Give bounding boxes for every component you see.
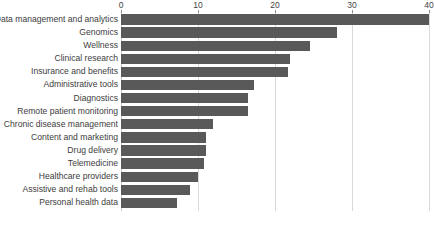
bar (121, 54, 290, 64)
bar (121, 14, 429, 24)
bar-row: Wellness (0, 39, 434, 52)
bar-row: Clinical research (0, 52, 434, 65)
category-label: Administrative tools (43, 78, 118, 91)
bar-row: Healthcare providers (0, 170, 434, 183)
x-axis-top: 010203040 (121, 0, 429, 13)
bar (121, 185, 190, 195)
bar-row: Drug delivery (0, 144, 434, 157)
bar-rows: Data management and analyticsGenomicsWel… (0, 13, 434, 211)
category-label: Personal health data (39, 196, 118, 209)
bar (121, 41, 310, 51)
bar (121, 132, 206, 142)
bar-row: Assistive and rehab tools (0, 183, 434, 196)
bar (121, 67, 288, 77)
category-label: Chronic disease management (4, 118, 118, 131)
bar-row: Diagnostics (0, 92, 434, 105)
bar-chart: 010203040 Data management and analyticsG… (0, 0, 434, 226)
bar (121, 106, 248, 116)
category-label: Diagnostics (74, 92, 118, 105)
bar (121, 158, 204, 168)
category-label: Clinical research (54, 52, 118, 65)
bar-row: Chronic disease management (0, 118, 434, 131)
bar-row: Insurance and benefits (0, 65, 434, 78)
bar (121, 198, 177, 208)
bar (121, 172, 198, 182)
bar-row: Telemedicine (0, 157, 434, 170)
category-label: Remote patient monitoring (17, 105, 118, 118)
bar-row: Content and marketing (0, 131, 434, 144)
bar (121, 27, 337, 37)
bar-row: Personal health data (0, 196, 434, 209)
bar-row: Data management and analytics (0, 13, 434, 26)
bar (121, 119, 213, 129)
bar (121, 145, 206, 155)
category-label: Wellness (83, 39, 118, 52)
bar-row: Genomics (0, 26, 434, 39)
category-label: Data management and analytics (0, 13, 118, 26)
bar-row: Remote patient monitoring (0, 105, 434, 118)
bar-row: Administrative tools (0, 78, 434, 91)
category-label: Drug delivery (67, 144, 118, 157)
category-label: Telemedicine (68, 157, 118, 170)
category-label: Genomics (79, 26, 118, 39)
bar (121, 80, 254, 90)
category-label: Assistive and rehab tools (22, 183, 118, 196)
category-label: Insurance and benefits (31, 65, 118, 78)
category-label: Content and marketing (31, 131, 118, 144)
bar (121, 93, 248, 103)
category-label: Healthcare providers (39, 170, 118, 183)
